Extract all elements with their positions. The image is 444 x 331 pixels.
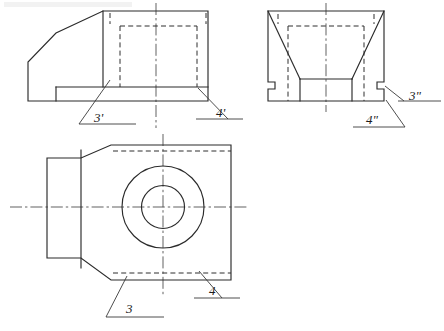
side-view: 3" 4"	[268, 3, 441, 127]
header-smudge	[4, 2, 132, 7]
label-4-double-prime: 4"	[366, 112, 379, 127]
front-view-hidden-lines	[110, 13, 206, 87]
label-3: 3	[125, 301, 133, 316]
engineering-drawing: 3' 4' 3"	[0, 0, 444, 331]
leader-3	[106, 276, 127, 317]
label-4: 4	[209, 283, 216, 298]
leader-3-double-prime	[385, 86, 404, 101]
label-3-double-prime: 3"	[408, 88, 422, 103]
top-view-hidden-lines	[113, 151, 231, 273]
side-view-chamfer-right	[352, 11, 384, 79]
faint-header-band	[4, 2, 132, 7]
side-view-chamfer-left	[268, 11, 300, 79]
top-view: 3 4	[10, 134, 248, 317]
label-3-prime: 3'	[93, 110, 104, 125]
front-view: 3' 4'	[28, 3, 243, 128]
leader-4-double-prime	[386, 100, 405, 127]
label-4-prime: 4'	[216, 105, 226, 120]
technical-drawing-canvas: 3' 4' 3"	[0, 0, 444, 331]
